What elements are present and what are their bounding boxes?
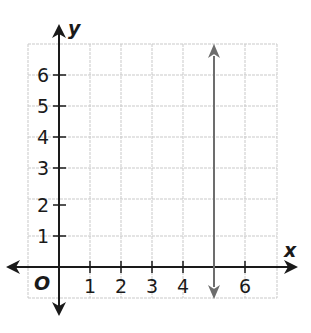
x-axis-label: x (283, 239, 297, 261)
y-axis-label: y (68, 17, 82, 39)
y-tick-3: 3 (37, 157, 49, 179)
y-tick-5: 5 (37, 95, 49, 117)
x-tick-2: 2 (115, 275, 127, 297)
y-axis (52, 24, 66, 316)
x-tick-3: 3 (146, 275, 158, 297)
y-tick-2: 2 (37, 194, 49, 216)
x-tick-4: 4 (177, 275, 189, 297)
origin-label: O (34, 272, 50, 294)
x-tick-6: 6 (239, 275, 251, 297)
x-tick-1: 1 (84, 275, 96, 297)
y-tick-1: 1 (37, 225, 49, 247)
coordinate-plane: y x O 1 2 3 4 6 6 5 4 3 2 1 (0, 0, 311, 333)
line-x-equals-5 (208, 44, 220, 299)
grid (28, 44, 277, 298)
y-tick-4: 4 (37, 126, 49, 148)
line-down-arrow-icon (208, 285, 220, 299)
y-tick-6: 6 (37, 64, 49, 86)
line-up-arrow-icon (208, 44, 220, 58)
